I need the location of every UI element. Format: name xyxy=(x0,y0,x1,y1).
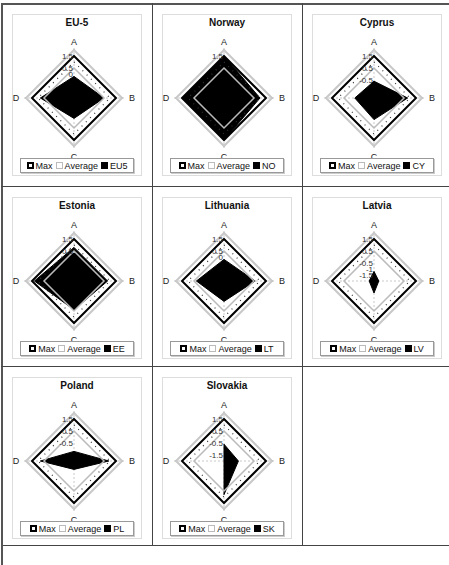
axis-label-d: D xyxy=(163,93,170,103)
legend-label: LT xyxy=(264,344,274,354)
legend-label: SK xyxy=(263,524,275,534)
legend-item-series: NO xyxy=(253,161,276,171)
grid-divider xyxy=(1,186,449,187)
legend-item-series: EE xyxy=(104,344,125,354)
axis-label-b: B xyxy=(129,456,135,466)
legend-swatch-icon xyxy=(329,162,336,169)
legend-label: Average xyxy=(367,161,400,171)
chart-legend: MaxAverageCY xyxy=(320,158,434,173)
legend-item-average: Average xyxy=(208,524,250,534)
legend-item-max: Max xyxy=(330,344,356,354)
legend-item-average: Average xyxy=(58,344,100,354)
legend-swatch-icon xyxy=(27,162,34,169)
legend-swatch-icon xyxy=(208,525,215,532)
grid-divider xyxy=(3,545,449,546)
legend-label: Max xyxy=(188,524,205,534)
legend-swatch-icon xyxy=(330,345,337,352)
legend-item-max: Max xyxy=(179,524,205,534)
axis-label-a: A xyxy=(71,37,77,47)
chart-legend: MaxAverageEU5 xyxy=(20,158,134,173)
legend-item-average: Average xyxy=(56,161,98,171)
legend-swatch-icon xyxy=(30,525,37,532)
legend-swatch-icon xyxy=(359,345,366,352)
axis-label-b: B xyxy=(129,93,135,103)
series-area xyxy=(196,259,255,301)
axis-label-d: D xyxy=(13,456,20,466)
tick-label: 1.5 xyxy=(212,235,224,244)
legend-swatch-icon xyxy=(403,162,410,169)
legend-label: Average xyxy=(68,524,101,534)
axis-label-d: D xyxy=(163,276,170,286)
radar-plot: ABCD1.50.50 xyxy=(4,6,150,156)
chart-legend: MaxAverageLT xyxy=(170,341,284,356)
series-area xyxy=(224,444,238,494)
legend-swatch-icon xyxy=(179,162,186,169)
axis-label-a: A xyxy=(371,37,377,47)
legend-item-series: CY xyxy=(403,161,425,171)
legend-swatch-icon xyxy=(405,345,412,352)
legend-item-max: Max xyxy=(27,161,53,171)
tick-label: 1.5 xyxy=(212,415,224,424)
tick-label: 1.5 xyxy=(62,52,74,61)
radar-plot: ABCD1.50.50 xyxy=(154,189,300,339)
axis-label-d: D xyxy=(313,276,320,286)
legend-label: EU5 xyxy=(110,161,128,171)
tick-label: -0.5 xyxy=(59,439,73,448)
axis-label-a: A xyxy=(221,400,227,410)
legend-item-series: LT xyxy=(255,344,274,354)
axis-label-b: B xyxy=(279,456,285,466)
legend-item-max: Max xyxy=(29,344,55,354)
legend-label: PL xyxy=(113,524,124,534)
tick-label: 0.5 xyxy=(362,247,374,256)
legend-label: Max xyxy=(38,344,55,354)
tick-label: -0.5 xyxy=(209,439,223,448)
tick-label: 0.5 xyxy=(212,427,224,436)
tick-label: -1.5 xyxy=(209,451,223,460)
axis-label-b: B xyxy=(279,93,285,103)
chart-legend: MaxAverageNO xyxy=(170,158,284,173)
legend-swatch-icon xyxy=(104,525,111,532)
legend-swatch-icon xyxy=(208,162,215,169)
axis-label-a: A xyxy=(221,37,227,47)
legend-swatch-icon xyxy=(179,525,186,532)
tick-label: 1.5 xyxy=(362,235,374,244)
legend-label: Average xyxy=(218,344,251,354)
radar-chart-lv: LatviaABCD1.50.5-0.5-1.5-1MaxAverageLV xyxy=(304,189,449,365)
legend-swatch-icon xyxy=(180,345,187,352)
chart-legend: MaxAverageEE xyxy=(20,341,134,356)
axis-label-a: A xyxy=(71,220,77,230)
axis-label-b: B xyxy=(429,93,435,103)
axis-label-a: A xyxy=(221,220,227,230)
axis-label-b: B xyxy=(129,276,135,286)
legend-swatch-icon xyxy=(104,345,111,352)
radar-chart-no: NorwayABCD1.5MaxAverageNO xyxy=(154,6,300,182)
series-area xyxy=(40,76,104,118)
legend-swatch-icon xyxy=(209,345,216,352)
legend-label: Average xyxy=(217,524,250,534)
legend-label: LV xyxy=(414,344,424,354)
axis-label-b: B xyxy=(279,276,285,286)
radar-plot: ABCD1.50.5-0.5-1.5-1 xyxy=(304,189,449,339)
radar-chart-sk: SlovakiaABCD1.50.5-0.5-1.5MaxAverageSK xyxy=(154,369,300,545)
axis-label-d: D xyxy=(13,276,20,286)
legend-swatch-icon xyxy=(101,162,108,169)
radar-chart-ee: EstoniaABCD1.50.5MaxAverageEE xyxy=(4,189,150,365)
tick-label: -1 xyxy=(366,265,374,274)
tick-label: 1.5 xyxy=(212,52,224,61)
tick-label: 0.5 xyxy=(62,427,74,436)
radar-chart-lt: LithuaniaABCD1.50.50MaxAverageLT xyxy=(154,189,300,365)
radar-chart-eu5: EU-5ABCD1.50.50MaxAverageEU5 xyxy=(4,6,150,182)
legend-swatch-icon xyxy=(56,162,63,169)
legend-label: Max xyxy=(36,161,53,171)
legend-item-average: Average xyxy=(359,344,401,354)
legend-label: Average xyxy=(65,161,98,171)
legend-item-series: SK xyxy=(254,524,275,534)
legend-item-series: EU5 xyxy=(101,161,128,171)
axis-label-a: A xyxy=(71,400,77,410)
legend-label: Average xyxy=(67,344,100,354)
axis-label-a: A xyxy=(371,220,377,230)
axis-label-d: D xyxy=(13,93,20,103)
axis-label-d: D xyxy=(313,93,320,103)
axis-label-d: D xyxy=(163,456,170,466)
legend-item-average: Average xyxy=(209,344,251,354)
